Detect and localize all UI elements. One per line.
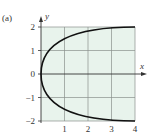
svg-text:2: 2 — [31, 22, 36, 32]
x-axis-label: x — [139, 61, 144, 71]
svg-text:4: 4 — [133, 124, 138, 134]
svg-text:3: 3 — [109, 124, 114, 134]
y-axis-label: y — [44, 11, 49, 21]
panel-label: (a) — [2, 13, 12, 23]
svg-text:0: 0 — [31, 69, 36, 79]
y-axis-arrow-icon — [39, 16, 43, 22]
svg-text:2: 2 — [86, 124, 91, 134]
x-tick-labels: 1 2 3 4 — [62, 124, 138, 134]
svg-text:−1: −1 — [25, 93, 35, 103]
svg-text:1: 1 — [31, 46, 36, 56]
parabola-chart: (a) y x 2 1 0 −1 −2 1 2 3 4 — [0, 0, 153, 140]
svg-text:1: 1 — [62, 124, 67, 134]
y-tick-labels: 2 1 0 −1 −2 — [25, 22, 35, 126]
svg-text:−2: −2 — [25, 116, 35, 126]
x-axis-arrow-icon — [141, 72, 147, 76]
